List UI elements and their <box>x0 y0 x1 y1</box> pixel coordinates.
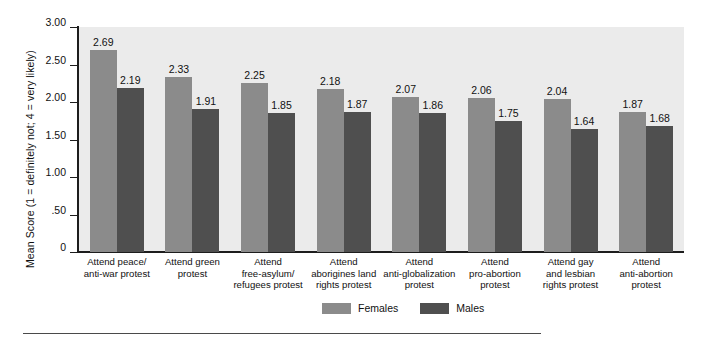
bar-value-label: 2.04 <box>535 85 580 97</box>
category-label: Attend pro-abortion protest <box>453 256 537 291</box>
bar-males <box>268 113 295 252</box>
bar-chart-figure: Mean Score (1 = definitely not; 4 = very… <box>0 0 704 339</box>
y-tick-mark <box>70 215 78 216</box>
y-tick-mark <box>70 252 78 253</box>
bar-males <box>117 88 144 252</box>
y-tick-mark <box>70 27 78 28</box>
bar-value-label: 2.18 <box>308 75 353 87</box>
y-tick-mark <box>70 65 78 66</box>
bar-males <box>646 126 673 252</box>
legend-label-males: Males <box>456 302 484 314</box>
bar-females <box>392 97 419 252</box>
bar-value-label: 1.68 <box>637 112 682 124</box>
y-tick-label: 1.50 <box>6 135 66 136</box>
bar-males <box>571 129 598 252</box>
bar-value-label: 1.86 <box>410 99 455 111</box>
category-label: Attend aborigines land rights protest <box>302 256 386 291</box>
bar-males <box>419 113 446 253</box>
bar-value-label: 1.64 <box>562 115 607 127</box>
category-label: Attend anti-abortion protest <box>604 256 688 291</box>
legend: Females Males <box>322 302 484 314</box>
bar-value-label: 1.87 <box>610 98 655 110</box>
y-tick-label: 2.50 <box>6 60 66 61</box>
y-tick-mark <box>70 140 78 141</box>
bar-value-label: 2.06 <box>459 84 504 96</box>
category-label: Attend peace/ anti-war protest <box>75 256 159 279</box>
bar-value-label: 1.75 <box>486 107 531 119</box>
legend-swatch-females-icon <box>322 303 351 314</box>
y-tick-mark <box>70 102 78 103</box>
bar-value-label: 2.07 <box>383 83 428 95</box>
y-tick-label: 1.00 <box>6 172 66 173</box>
legend-item-males: Males <box>420 302 484 314</box>
bar-males <box>495 121 522 252</box>
bar-value-label: 1.85 <box>259 99 304 111</box>
bar-value-label: 1.87 <box>335 98 380 110</box>
y-tick-mark <box>70 177 78 178</box>
legend-swatch-males-icon <box>420 303 449 314</box>
bar-males <box>192 109 219 252</box>
y-tick-label: 0 <box>6 247 66 248</box>
y-tick-label: 2.00 <box>6 97 66 98</box>
bar-value-label: 1.91 <box>183 95 228 107</box>
bar-females <box>317 89 344 253</box>
bar-males <box>344 112 371 252</box>
bar-value-label: 2.25 <box>232 69 277 81</box>
bar-females <box>468 98 495 253</box>
category-label: Attend free-asylum/ refugees protest <box>226 256 310 291</box>
legend-label-females: Females <box>358 302 398 314</box>
bar-females <box>619 112 646 252</box>
bar-value-label: 2.33 <box>156 63 201 75</box>
y-tick-label: 3.00 <box>6 22 66 23</box>
category-label: Attend anti-globalization protest <box>378 256 462 291</box>
legend-item-females: Females <box>322 302 398 314</box>
footer-divider <box>23 333 541 334</box>
y-tick-label: .50 <box>6 210 66 211</box>
bar-value-label: 2.19 <box>108 74 153 86</box>
bar-value-label: 2.69 <box>81 36 126 48</box>
category-label: Attend green protest <box>151 256 235 279</box>
category-label: Attend gay and lesbian rights protest <box>529 256 613 291</box>
